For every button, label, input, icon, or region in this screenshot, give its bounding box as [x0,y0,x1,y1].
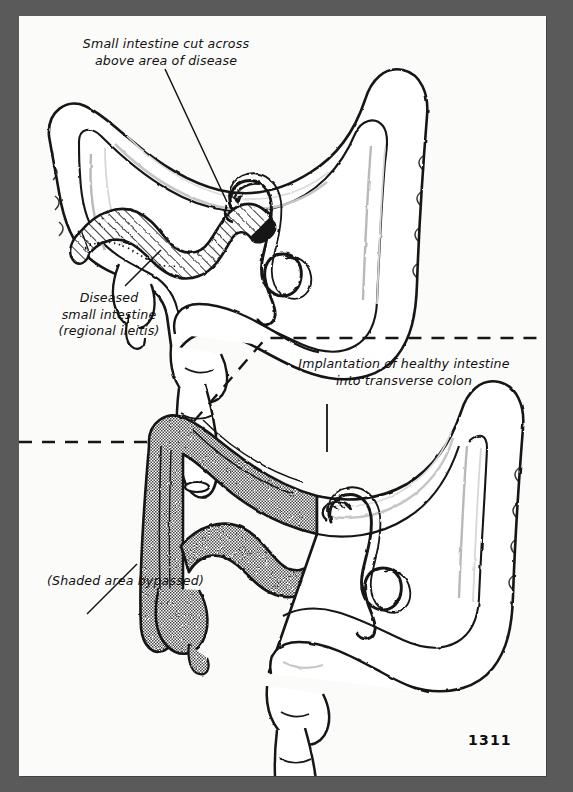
upper-figure [49,69,427,497]
bypassed-cecum [156,588,209,674]
book-page: Small intestine cut across above area of… [19,16,546,776]
medical-illustration [19,16,546,776]
scanned-page-container: Small intestine cut across above area of… [0,0,573,792]
caption-small-intestine-cut: Small intestine cut across above area of… [55,36,277,69]
caption-diseased-small-intestine: Diseased small intestine (regional ileit… [23,290,195,340]
caption-implantation: Implantation of healthy intestine into t… [269,356,539,389]
page-number: 1311 [468,732,512,748]
caption-shaded-area-bypassed: (Shaded area bypassed) [47,573,247,590]
